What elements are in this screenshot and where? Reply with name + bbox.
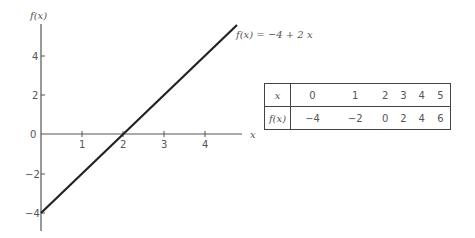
table-row-fx: f(x) −4 −2 0 2 4 6 — [265, 107, 451, 130]
y-tick-label-4: 4 — [32, 51, 38, 62]
table-cell: 2 — [376, 84, 394, 107]
table-header-fx: f(x) — [265, 107, 291, 130]
origin-label: 0 — [30, 129, 36, 140]
table-header-x: x — [265, 84, 291, 107]
values-table: x 0 1 2 3 4 5 f(x) −4 −2 0 2 4 6 — [264, 83, 451, 130]
y-tick-label-neg4: −4 — [25, 208, 40, 219]
table-row-x: x 0 1 2 3 4 5 — [265, 84, 451, 107]
x-tick-label-1: 1 — [79, 139, 85, 150]
table-cell: 5 — [431, 84, 451, 107]
table-cell: 0 — [291, 84, 335, 107]
table-cell: 1 — [334, 84, 376, 107]
table-cell: 6 — [431, 107, 451, 130]
table-cell: 2 — [394, 107, 412, 130]
table-cell: 4 — [413, 107, 431, 130]
y-axis-label: f(x) — [29, 10, 47, 21]
table-cell: −2 — [334, 107, 376, 130]
x-tick-label-2: 2 — [120, 139, 126, 150]
x-tick-label-3: 3 — [161, 139, 167, 150]
y-tick-label-neg2: −2 — [25, 169, 40, 180]
table-cell: 0 — [376, 107, 394, 130]
x-axis-label: x — [250, 129, 256, 140]
table-cell: 3 — [394, 84, 412, 107]
y-tick-label-2: 2 — [32, 90, 38, 101]
function-line — [41, 25, 237, 213]
equation-label: f(x) = −4 + 2 x — [235, 29, 313, 40]
x-tick-label-4: 4 — [202, 139, 208, 150]
table-cell: 4 — [413, 84, 431, 107]
table-cell: −4 — [291, 107, 335, 130]
